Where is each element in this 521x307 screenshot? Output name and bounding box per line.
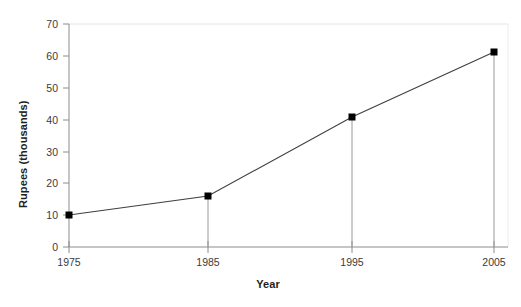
data-droplines <box>208 52 494 247</box>
x-tick-label-1985: 1985 <box>183 256 233 268</box>
x-tick-label-1975: 1975 <box>44 256 94 268</box>
y-tick-label-10: 10 <box>32 209 58 221</box>
data-point-2005 <box>491 49 498 56</box>
line-chart: 70 60 50 40 30 20 10 0 1975 1985 1995 20… <box>0 0 521 307</box>
y-axis-title: Rupees (thousands) <box>17 100 29 208</box>
x-tick-label-2005: 2005 <box>469 256 519 268</box>
y-tick-label-40: 40 <box>32 114 58 126</box>
data-point-1985 <box>205 193 212 200</box>
series-markers-rupees <box>66 49 498 219</box>
y-tick-label-30: 30 <box>32 146 58 158</box>
y-tick-label-60: 60 <box>32 50 58 62</box>
data-point-1995 <box>349 114 356 121</box>
y-tick-label-70: 70 <box>32 18 58 30</box>
data-point-1975 <box>66 212 73 219</box>
y-tick-label-20: 20 <box>32 177 58 189</box>
x-axis-title: Year <box>218 278 318 290</box>
series-line-rupees <box>69 52 494 215</box>
y-tick-label-50: 50 <box>32 82 58 94</box>
y-tick-label-0: 0 <box>32 241 58 253</box>
x-tick-label-1995: 1995 <box>327 256 377 268</box>
